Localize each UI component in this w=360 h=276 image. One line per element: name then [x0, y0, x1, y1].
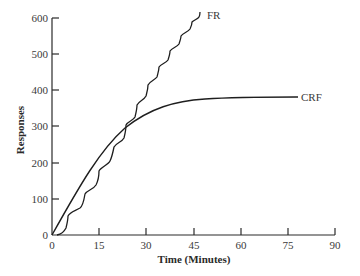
- y-axis-title: Responses: [14, 105, 26, 154]
- y-tick-label: 400: [32, 84, 49, 96]
- y-tick-labels: 600 500 400 300 200 100 0: [32, 12, 49, 241]
- x-tick-label: 0: [49, 239, 55, 251]
- fr-curve: [57, 12, 200, 235]
- x-tick-label: 30: [141, 239, 153, 251]
- y-tick-label: 600: [32, 12, 49, 24]
- x-tick-label: 45: [189, 239, 201, 251]
- y-tick-label: 300: [32, 120, 49, 132]
- x-tick-label: 15: [94, 239, 106, 251]
- axes: [52, 18, 335, 235]
- fr-label: FR: [207, 9, 221, 21]
- crf-curve: [52, 97, 296, 235]
- y-tick-label: 200: [32, 157, 49, 169]
- x-tick-label: 75: [283, 239, 295, 251]
- chart-canvas: 600 500 400 300 200 100 0 0 15 30 45 60 …: [0, 0, 360, 276]
- x-axis-title: Time (Minutes): [158, 253, 231, 266]
- crf-label: CRF: [301, 91, 322, 103]
- y-tick-label: 100: [32, 193, 49, 205]
- x-tick-label: 90: [330, 239, 342, 251]
- y-tick-label: 500: [32, 48, 49, 60]
- x-tick-label: 60: [236, 239, 248, 251]
- y-tick-label: 0: [43, 229, 49, 241]
- x-tick-labels: 0 15 30 45 60 75 90: [49, 239, 341, 251]
